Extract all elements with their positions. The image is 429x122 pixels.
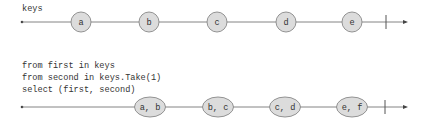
marble-e: e	[342, 12, 362, 32]
marble-label: b, c	[208, 103, 229, 113]
marble-c: c	[207, 12, 227, 32]
marble-ef: e, f	[337, 97, 368, 117]
bottom-timeline: a, b b, c c, d e, f	[21, 97, 408, 117]
marble-b: b	[139, 12, 159, 32]
marble-ab: a, b	[135, 97, 166, 117]
marble-label: a	[78, 18, 83, 28]
marble-label: a, b	[140, 103, 161, 113]
timeline-arrow-icon	[403, 20, 408, 24]
marble-a: a	[71, 12, 91, 32]
marble-label: b	[146, 18, 151, 28]
top-timeline: a b c d e	[21, 12, 408, 32]
marble-cd: c, d	[270, 97, 301, 117]
marble-label: c	[214, 18, 219, 28]
marble-bc: b, c	[203, 97, 234, 117]
marble-label: d	[283, 18, 288, 28]
timeline-arrow-icon	[403, 105, 408, 109]
marble-d: d	[276, 12, 296, 32]
marble-label: e	[349, 18, 354, 28]
marble-label: e, f	[342, 103, 363, 113]
marble-label: c, d	[275, 103, 296, 113]
marble-diagram: a b c d e a, b b, c	[0, 0, 429, 122]
